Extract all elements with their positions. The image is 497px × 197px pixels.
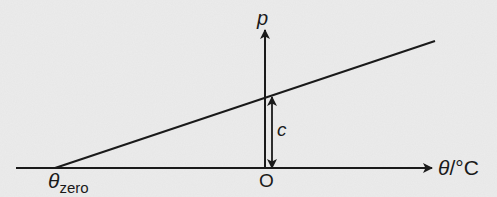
celsius-unit: /°C bbox=[449, 156, 478, 179]
origin-label: O bbox=[259, 171, 274, 190]
zero-subscript: zero bbox=[59, 179, 88, 196]
p-axis-label: p bbox=[257, 8, 268, 28]
pressure-temperature-diagram bbox=[0, 0, 497, 197]
theta-zero-label: θzero bbox=[48, 170, 89, 191]
theta-symbol: θ bbox=[438, 156, 449, 179]
theta-symbol: θ bbox=[48, 169, 59, 192]
theta-axis-label: θ/°C bbox=[438, 157, 479, 178]
c-intercept-label: c bbox=[277, 120, 287, 139]
